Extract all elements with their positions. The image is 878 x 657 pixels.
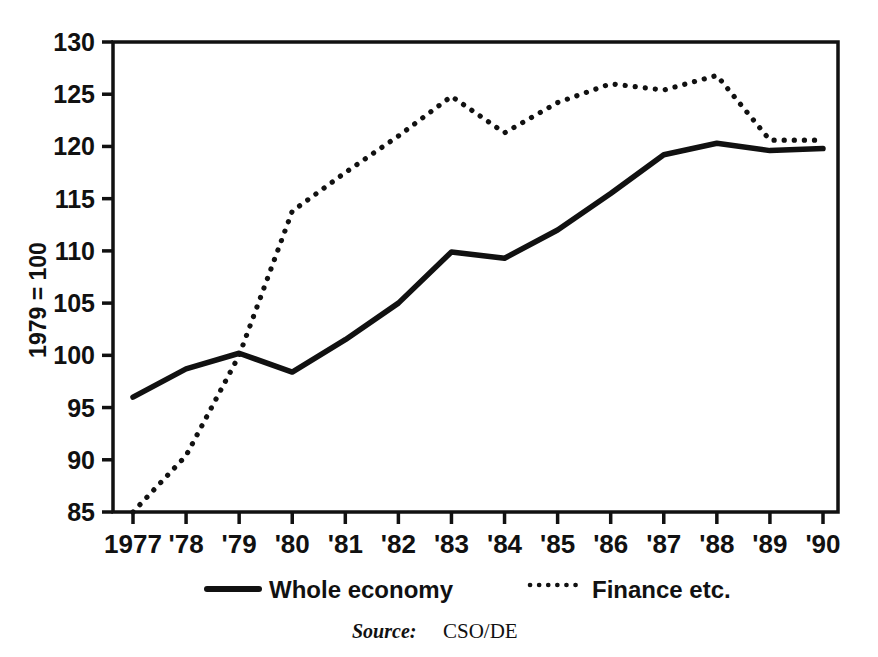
source-label: Source: [352,620,416,642]
x-tick-label: '89 [752,529,787,559]
y-tick-label: 90 [67,446,95,474]
y-tick-label: 130 [53,28,95,56]
x-tick-label: '80 [275,529,310,559]
x-tick-label: '78 [169,529,204,559]
plot-frame [113,42,838,512]
chart-legend: Whole economyFinance etc. [207,576,731,603]
x-tick-label: '82 [381,529,416,559]
y-tick-label: 85 [67,498,95,526]
x-tick-label: '81 [328,529,363,559]
line-chart: 859095100105110115120125130 1977'78'79'8… [0,0,878,657]
x-tick-label: '79 [222,529,257,559]
x-tick-label: '90 [805,529,840,559]
x-tick-label: '84 [487,529,523,559]
x-axis-tick-labels: 1977'78'79'80'81'82'83'84'85'86'87'88'89… [104,529,840,559]
y-tick-label: 95 [67,394,95,422]
x-axis-ticks [133,512,823,524]
y-tick-label: 115 [55,185,95,213]
y-tick-label: 120 [53,132,95,160]
source-note: Source: CSO/DE [352,619,518,643]
source-value: CSO/DE [443,619,518,643]
y-tick-label: 110 [55,237,95,265]
legend-label-1: Whole economy [269,576,454,603]
x-tick-label: '87 [646,529,681,559]
x-tick-label: '88 [699,529,734,559]
y-tick-label: 105 [53,289,95,317]
y-tick-label: 125 [53,80,95,108]
x-tick-label: '83 [434,529,469,559]
x-tick-label: '86 [593,529,628,559]
y-axis-tick-labels: 859095100105110115120125130 [53,28,95,526]
y-axis-title: 1979 = 100 [25,242,51,358]
series-line-1 [133,143,823,397]
legend-label-2: Finance etc. [592,576,731,603]
y-tick-label: 100 [53,341,95,369]
x-tick-label: '85 [540,529,575,559]
chart-figure: 859095100105110115120125130 1977'78'79'8… [0,0,878,657]
data-series-group [133,75,823,512]
x-tick-label: 1977 [104,529,162,559]
